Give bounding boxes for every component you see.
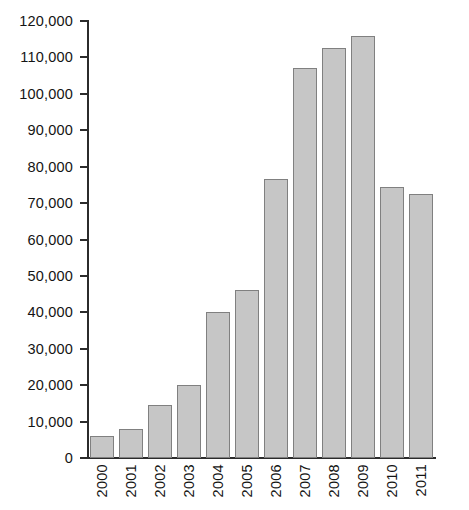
x-axis-tick-label: 2004 xyxy=(206,464,230,508)
y-axis-tick-label: 110,000 xyxy=(20,49,73,65)
y-axis-tick-label: 80,000 xyxy=(27,159,73,175)
x-axis-tick-label: 2011 xyxy=(409,464,433,508)
y-axis-tick-mark: 0 xyxy=(80,457,88,459)
y-axis-tick-label: 0 xyxy=(65,450,73,466)
x-axis-tick-label: 2001 xyxy=(119,464,143,508)
bar xyxy=(206,312,230,458)
bar xyxy=(119,429,143,458)
y-axis-tick-label: 50,000 xyxy=(27,268,73,284)
bar xyxy=(177,385,201,458)
bar xyxy=(90,436,114,458)
y-axis-tick-mark: 110,000 xyxy=(80,56,88,58)
x-axis-tick-label-text: 2007 xyxy=(297,464,313,497)
y-axis-tick-label: 10,000 xyxy=(27,414,73,430)
x-axis-tick-label-text: 2005 xyxy=(239,464,255,497)
y-axis-tick-label: 20,000 xyxy=(27,377,73,393)
bar xyxy=(235,290,259,458)
y-axis-tick-mark: 100,000 xyxy=(80,93,88,95)
x-axis-tick-label: 2003 xyxy=(177,464,201,508)
y-axis-tick-mark: 40,000 xyxy=(80,311,88,313)
x-axis-tick-label: 2008 xyxy=(322,464,346,508)
x-axis-tick-label: 2006 xyxy=(264,464,288,508)
x-axis-tick-label-text: 2008 xyxy=(326,464,342,497)
x-axis-tick-label-text: 2000 xyxy=(94,464,110,497)
x-axis-tick-label-text: 2006 xyxy=(268,464,284,497)
x-axis-tick-label-text: 2003 xyxy=(181,464,197,497)
y-axis-tick-mark: 120,000 xyxy=(80,20,88,22)
x-axis-tick-label: 2009 xyxy=(351,464,375,508)
bar xyxy=(148,405,172,458)
y-axis-tick-label: 120,000 xyxy=(19,13,73,29)
y-axis-tick-label: 70,000 xyxy=(27,195,73,211)
bar xyxy=(409,194,433,458)
y-axis-tick-mark: 90,000 xyxy=(80,129,88,131)
y-axis-tick-mark: 70,000 xyxy=(80,202,88,204)
x-axis-tick-label: 2002 xyxy=(148,464,172,508)
y-axis-tick-mark: 50,000 xyxy=(80,275,88,277)
y-axis-tick-mark: 10,000 xyxy=(80,421,88,423)
y-axis-tick-mark: 30,000 xyxy=(80,348,88,350)
bar xyxy=(351,36,375,458)
y-axis-tick-label: 60,000 xyxy=(27,232,73,248)
bar xyxy=(264,179,288,458)
x-axis-tick-label: 2000 xyxy=(90,464,114,508)
x-axis-tick-label: 2010 xyxy=(380,464,404,508)
bar-chart: 010,00020,00030,00040,00050,00060,00070,… xyxy=(0,0,469,510)
plot-area xyxy=(88,21,436,458)
bar xyxy=(293,68,317,458)
y-axis-tick-mark: 20,000 xyxy=(80,384,88,386)
y-axis-tick-label: 100,000 xyxy=(19,86,73,102)
y-axis-tick-label: 30,000 xyxy=(27,341,73,357)
x-axis-tick-label-text: 2001 xyxy=(123,464,139,497)
x-axis-tick-label: 2007 xyxy=(293,464,317,508)
y-axis-tick-label: 40,000 xyxy=(27,304,73,320)
x-axis-tick-label-text: 2009 xyxy=(355,464,371,497)
bar xyxy=(322,48,346,458)
x-axis-tick-label-text: 2010 xyxy=(384,464,400,497)
x-axis-tick-label-text: 2004 xyxy=(210,464,226,497)
bar xyxy=(380,187,404,458)
x-axis-tick-label-text: 2011 xyxy=(413,464,429,496)
y-axis-tick-label: 90,000 xyxy=(27,122,73,138)
x-axis-tick-label-text: 2002 xyxy=(152,464,168,497)
y-axis-tick-mark: 80,000 xyxy=(80,166,88,168)
x-axis-tick-label: 2005 xyxy=(235,464,259,508)
y-axis-tick-mark: 60,000 xyxy=(80,239,88,241)
